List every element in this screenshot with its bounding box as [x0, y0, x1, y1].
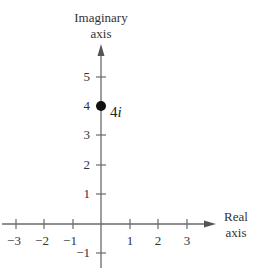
real-axis-title-line2: axis [226, 225, 247, 240]
x-tick-label-3: 3 [184, 233, 191, 248]
complex-plane-diagram: Imaginary axis Real axis 5 4 3 2 1 −1 [0, 0, 254, 274]
point-label: 4i [110, 104, 122, 120]
y-tick-label-3: 3 [84, 127, 91, 142]
point-marker [96, 101, 106, 111]
arrow-right-icon [204, 221, 216, 228]
real-axis-title-line1: Real [224, 209, 248, 224]
y-tick-label-neg1: −1 [76, 245, 90, 260]
y-tick-labels: 5 4 3 2 1 −1 [76, 69, 90, 260]
x-tick-label-neg1: −1 [63, 233, 77, 248]
imaginary-axis-title-line1: Imaginary [74, 10, 128, 25]
x-tick-label-1: 1 [127, 233, 134, 248]
y-tick-label-1: 1 [84, 186, 91, 201]
arrow-up-icon [98, 44, 105, 56]
x-tick-label-2: 2 [155, 233, 162, 248]
x-tick-label-neg2: −2 [35, 233, 49, 248]
point-label-unit: i [118, 104, 122, 120]
point-4i: 4i [96, 101, 122, 120]
y-tick-label-2: 2 [84, 157, 91, 172]
imaginary-axis-title-line2: axis [91, 26, 112, 41]
x-tick-label-neg3: −3 [7, 233, 21, 248]
x-tick-labels: −3 −2 −1 1 2 3 [7, 233, 190, 248]
y-tick-label-5: 5 [84, 69, 91, 84]
real-axis [2, 221, 216, 228]
y-tick-label-4: 4 [84, 98, 91, 113]
